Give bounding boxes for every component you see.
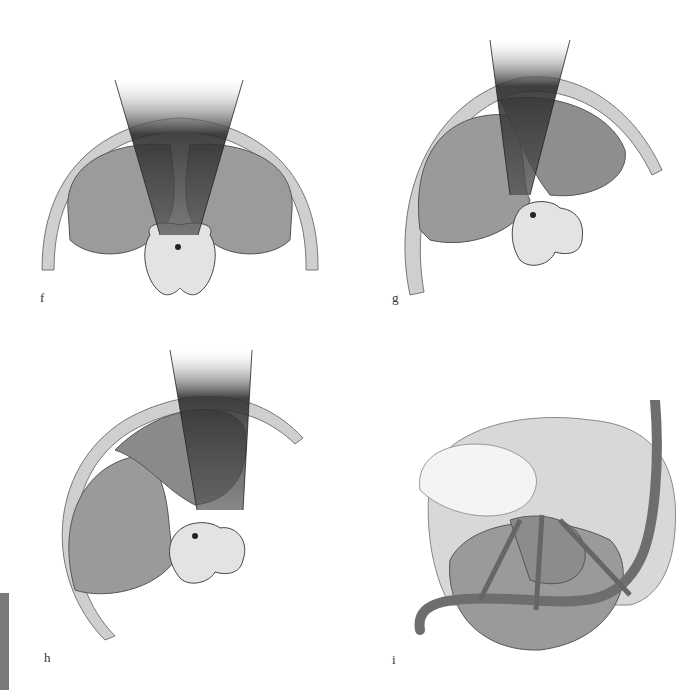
panel-g-illustration <box>390 40 680 300</box>
page-side-tab <box>0 593 9 690</box>
panel-i-illustration <box>410 400 690 670</box>
panel-label-i: i <box>392 652 396 668</box>
panel-f-illustration <box>30 60 330 320</box>
panel-label-f: f <box>40 290 44 306</box>
panel-label-g: g <box>392 290 399 306</box>
panel-h-illustration <box>45 350 315 650</box>
panel-label-h: h <box>44 650 51 666</box>
